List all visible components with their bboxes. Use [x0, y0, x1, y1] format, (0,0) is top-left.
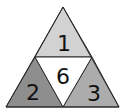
label-left: 2: [26, 80, 40, 105]
label-right: 3: [87, 81, 101, 106]
label-center: 6: [56, 64, 70, 89]
triangle-diagram: 1 2 3 6: [0, 0, 121, 112]
label-top: 1: [57, 31, 71, 56]
